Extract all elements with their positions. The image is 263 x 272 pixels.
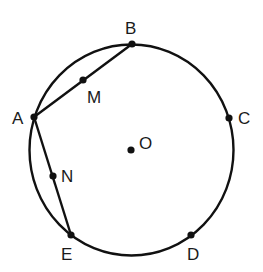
point-n [49,172,56,179]
point-d [187,231,194,238]
label-o: O [139,134,152,153]
point-a [30,113,37,120]
label-a: A [12,109,24,128]
label-c: C [238,109,250,128]
label-m: M [87,88,101,107]
geometry-diagram: A B C D E M N O [0,0,263,272]
label-e: E [61,245,72,264]
label-n: N [61,167,73,186]
label-d: D [187,245,199,264]
point-b [128,40,135,47]
point-o [127,146,134,153]
point-c [225,114,232,121]
point-e [67,231,74,238]
label-b: B [125,19,136,38]
point-m [79,76,86,83]
